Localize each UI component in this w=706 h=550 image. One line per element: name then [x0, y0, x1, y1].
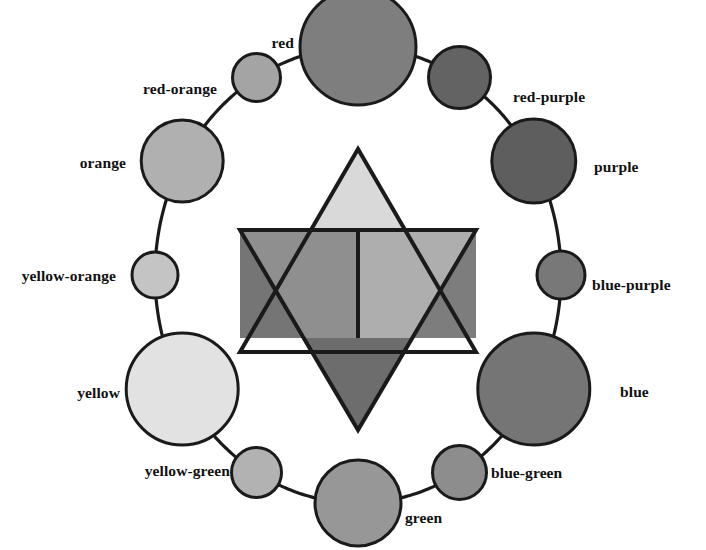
color-swatch-blue[interactable] — [478, 333, 590, 445]
ring-arc-blue-green-to-green — [399, 486, 436, 499]
color-swatch-yellow[interactable] — [126, 333, 238, 445]
color-swatch-blue-green[interactable] — [433, 445, 487, 499]
swatch-label-blue: blue — [620, 384, 649, 400]
swatch-label-red-orange: red-orange — [143, 81, 217, 97]
swatch-label-red: red — [272, 35, 294, 51]
swatch-label-yellow: yellow — [77, 385, 120, 401]
color-swatch-yellow-orange[interactable] — [132, 252, 178, 298]
color-swatch-green[interactable] — [315, 460, 401, 546]
swatch-label-yellow-green: yellow-green — [145, 463, 230, 479]
color-swatch-blue-purple[interactable] — [537, 251, 585, 299]
swatch-label-purple: purple — [594, 159, 639, 175]
ring-arc-red-orange-to-red — [278, 56, 303, 66]
swatch-label-yellow-orange: yellow-orange — [22, 268, 116, 284]
value-star-group — [240, 149, 476, 430]
ring-arc-blue-to-blue-green — [482, 434, 504, 456]
color-swatch-yellow-green[interactable] — [232, 447, 282, 497]
swatch-label-red-purple: red-purple — [513, 89, 585, 105]
swatch-label-orange: orange — [80, 155, 126, 171]
color-wheel-diagram: redred-purplepurpleblue-purpleblueblue-g… — [0, 0, 706, 550]
ring-arc-yellow-to-yellow-orange — [156, 298, 163, 337]
ring-arc-purple-to-blue-purple — [550, 200, 560, 252]
swatch-label-green: green — [405, 510, 442, 526]
color-swatch-red-purple[interactable] — [429, 47, 491, 109]
ring-arc-green-to-yellow-green — [278, 484, 317, 498]
ring-arc-yellow-orange-to-orange — [156, 197, 167, 252]
ring-arc-yellow-green-to-yellow — [212, 434, 236, 458]
swatch-label-blue-green: blue-green — [491, 465, 562, 481]
swatch-label-blue-purple: blue-purple — [592, 277, 671, 293]
ring-arc-blue-purple-to-blue — [553, 298, 560, 337]
ring-arc-red-purple-to-purple — [484, 96, 512, 126]
color-swatch-red-orange[interactable] — [233, 54, 281, 102]
color-swatch-red[interactable] — [300, 0, 416, 105]
color-swatch-orange[interactable] — [141, 120, 223, 202]
color-swatch-purple[interactable] — [492, 119, 576, 203]
